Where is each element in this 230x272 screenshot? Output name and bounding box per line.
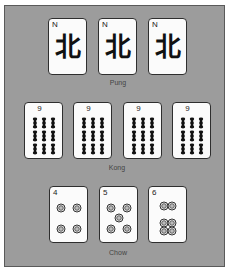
tile-index: 9	[17, 105, 62, 113]
tile-bamboo-9-4: 9	[172, 102, 211, 159]
tile-bamboo-9-3: 9	[123, 102, 162, 159]
tile-index: 5	[103, 189, 107, 197]
tile-index: 4	[53, 189, 57, 197]
nine-bamboo-icon	[79, 116, 107, 156]
tile-index: 9	[116, 105, 161, 113]
north-wind-character-icon: 北	[53, 30, 83, 64]
tile-index: N	[102, 21, 108, 29]
kong-label: Kong	[87, 164, 147, 171]
tile-north-wind-3: N 北	[148, 18, 187, 75]
nine-bamboo-icon	[30, 116, 58, 156]
tile-index: N	[52, 21, 58, 29]
four-circles-icon	[53, 199, 85, 239]
tile-circles-6: 6	[148, 186, 187, 243]
six-circles-icon	[152, 199, 184, 239]
tile-index: 9	[165, 105, 210, 113]
tile-north-wind-2: N 北	[98, 18, 137, 75]
north-wind-character-icon: 北	[103, 30, 133, 64]
north-wind-character-icon: 北	[153, 30, 183, 64]
tile-north-wind-1: N 北	[48, 18, 87, 75]
five-circles-icon	[103, 199, 135, 239]
nine-bamboo-icon	[129, 116, 157, 156]
chow-label: Chow	[88, 249, 148, 256]
tile-index: 9	[66, 105, 111, 113]
tile-index: 6	[152, 189, 156, 197]
tile-index: N	[152, 21, 158, 29]
tile-circles-5: 5	[99, 186, 138, 243]
tile-bamboo-9-1: 9	[24, 102, 63, 159]
nine-bamboo-icon	[178, 116, 206, 156]
tile-bamboo-9-2: 9	[73, 102, 112, 159]
tile-circles-4: 4	[49, 186, 88, 243]
pung-label: Pung	[88, 79, 148, 86]
